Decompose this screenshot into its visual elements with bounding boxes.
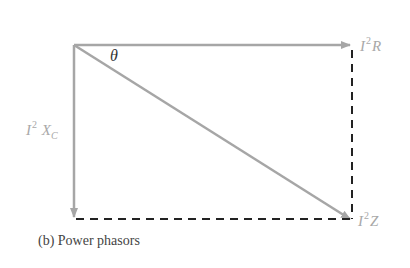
label-exponent: 2: [32, 119, 37, 130]
label-suffix: R: [372, 38, 381, 54]
label-exponent: 2: [364, 210, 369, 221]
label-exponent: 2: [366, 35, 371, 46]
label-base: I: [26, 122, 31, 138]
label-base: I: [360, 38, 365, 54]
phasor-graphics: [0, 0, 410, 268]
label-suffix: X: [42, 122, 51, 138]
figure-caption: (b) Power phasors: [38, 233, 140, 249]
apparent-power-label: I2Z: [358, 211, 378, 229]
label-suffix: Z: [370, 213, 378, 229]
label-base: I: [358, 213, 363, 229]
real-power-label: I2R: [360, 36, 381, 54]
label-subscript: C: [51, 130, 58, 141]
apparent-power-arrow: [74, 45, 350, 219]
reactive-power-label: I2 XC: [26, 120, 58, 141]
theta-label: θ: [110, 47, 118, 65]
power-phasor-diagram: θ I2R I2 XC I2Z (b) Power phasors: [0, 0, 410, 268]
